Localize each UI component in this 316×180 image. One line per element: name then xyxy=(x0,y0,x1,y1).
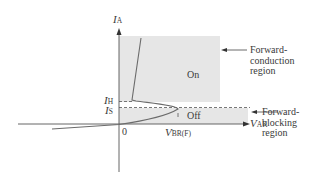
forward-blocking-callout: Forward- blocking region xyxy=(262,107,299,139)
origin-label: 0 xyxy=(122,127,127,137)
y-axis-arrow xyxy=(117,28,122,35)
forward-conduction-callout: Forward- conduction region xyxy=(250,45,294,77)
off-region-label: Off xyxy=(187,111,201,121)
forward-blocking-line-1: Forward- xyxy=(262,107,299,118)
blocking-callout-arrow xyxy=(251,110,257,114)
switching-current-label: IS xyxy=(105,105,113,117)
y-axis-label-sub: A xyxy=(117,16,122,25)
on-region-fill xyxy=(119,36,220,102)
breakover-voltage-label: VBR(F) xyxy=(165,127,191,139)
breakover-voltage-label-main: V xyxy=(165,126,172,138)
forward-blocking-line-3: region xyxy=(262,128,299,139)
y-axis-label: IA xyxy=(113,14,122,26)
x-axis-label-main: V xyxy=(250,117,257,129)
forward-conduction-line-3: region xyxy=(250,66,294,77)
forward-conduction-line-1: Forward- xyxy=(250,45,294,56)
conduction-callout-arrow xyxy=(221,48,227,52)
switching-current-label-sub: S xyxy=(109,107,113,116)
on-region-label: On xyxy=(187,70,199,80)
breakover-voltage-label-sub: BR(F) xyxy=(172,129,191,138)
thyristor-iv-diagram xyxy=(0,0,316,180)
